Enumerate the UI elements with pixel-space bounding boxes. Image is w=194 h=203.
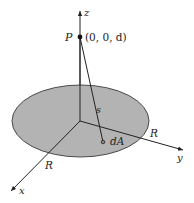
x-axis-label: x (19, 185, 25, 196)
radius-label-x-side: R (44, 159, 53, 171)
radius-label-y-side: R (149, 127, 158, 139)
point-P-coordinates: (0, 0, d) (85, 31, 127, 43)
distance-label-s: s (96, 104, 101, 115)
charged-disk-diagram: z P (0, 0, d) s dA R R y x (0, 0, 194, 203)
area-element-label: dA (110, 135, 125, 147)
z-axis-label: z (83, 7, 90, 18)
point-P (78, 35, 83, 40)
area-element-dA (101, 140, 105, 144)
y-axis-label: y (176, 152, 183, 163)
point-P-label: P (64, 31, 73, 44)
